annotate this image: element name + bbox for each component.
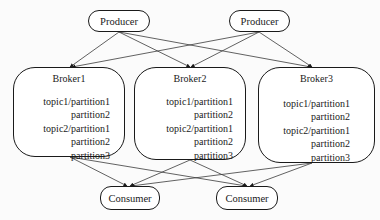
partition-item: partition2 (43, 135, 110, 148)
partition-item: partition3 (166, 149, 233, 162)
broker-node-1: Broker1 topic1/partition1 partition2 top… (13, 67, 125, 157)
partition-item: partition2 (166, 135, 233, 148)
partition-list: topic1/partition1 partition2 topic2/part… (166, 95, 233, 162)
partition-item: topic2/partition1 (166, 122, 233, 135)
consumer-node-2: Consumer (216, 186, 278, 210)
partition-item: partition3 (283, 151, 350, 164)
partition-list: topic1/partition1 partition2 topic2/part… (43, 95, 110, 162)
producer-label: Producer (241, 16, 279, 27)
kafka-diagram: Producer Producer Broker1 topic1/partiti… (0, 0, 380, 220)
partition-item: partition2 (283, 110, 350, 123)
edge-p2-b2 (191, 32, 259, 67)
edge-b3-c2 (250, 163, 312, 186)
partition-item: topic1/partition1 (166, 95, 233, 108)
partition-list: topic1/partition1 partition2 topic2/part… (283, 97, 350, 164)
partition-item: partition2 (283, 137, 350, 150)
broker-node-3: Broker3 topic1/partition1 partition2 top… (258, 67, 375, 163)
edge-p1-b2 (119, 32, 190, 67)
broker-title: Broker2 (135, 73, 245, 84)
edge-p2-b1 (72, 32, 259, 67)
producer-node-2: Producer (229, 10, 290, 32)
producer-label: Producer (100, 16, 138, 27)
broker-title: Broker3 (259, 73, 374, 84)
consumer-label: Consumer (108, 193, 151, 204)
edge-p1-b3 (119, 32, 311, 67)
edge-p1-b1 (70, 32, 119, 67)
broker-node-2: Broker2 topic1/partition1 partition2 top… (134, 67, 246, 160)
edge-b3-c1 (131, 163, 312, 186)
partition-item: topic1/partition1 (283, 97, 350, 110)
broker-title: Broker1 (14, 73, 124, 84)
producer-node-1: Producer (88, 10, 150, 32)
partition-item: partition2 (166, 108, 233, 121)
partition-item: partition3 (43, 149, 110, 162)
edge-b2-c2 (190, 160, 247, 186)
partition-item: topic1/partition1 (43, 95, 110, 108)
partition-item: topic2/partition1 (43, 122, 110, 135)
partition-item: topic2/partition1 (283, 124, 350, 137)
consumer-label: Consumer (225, 193, 268, 204)
edge-p2-b3 (259, 32, 312, 67)
consumer-node-1: Consumer (100, 186, 160, 210)
partition-item: partition2 (43, 108, 110, 121)
